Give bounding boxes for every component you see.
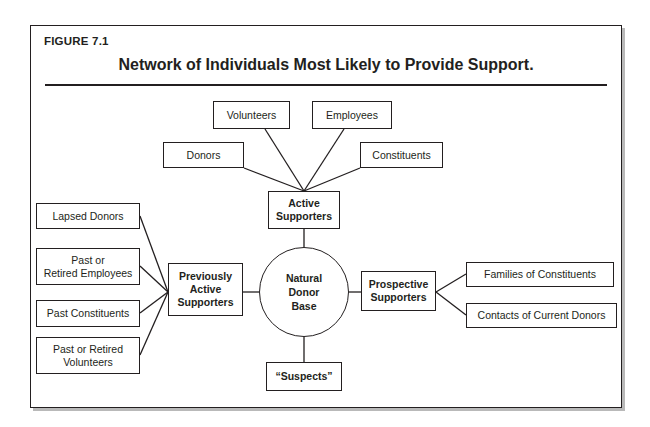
node-past-or-retired-employees-line1: Past or [71, 254, 104, 267]
node-families-of-constituents[interactable]: Families of Constituents [466, 262, 614, 287]
connector-prospective-to-families [436, 274, 466, 292]
node-previously-active-supporters-line2: Active [190, 283, 222, 296]
node-lapsed-donors[interactable]: Lapsed Donors [36, 203, 140, 229]
node-prospective-supporters-line1: Prospective [369, 278, 429, 291]
node-active-supporters-line1: Active [288, 197, 320, 210]
node-past-or-retired-volunteers-line1: Past or Retired [53, 343, 123, 356]
node-employees-label: Employees [326, 109, 378, 122]
node-past-or-retired-employees[interactable]: Past or Retired Employees [36, 248, 140, 285]
node-past-or-retired-volunteers[interactable]: Past or Retired Volunteers [36, 337, 140, 374]
node-past-constituents-label: Past Constituents [47, 307, 129, 320]
connector-prospective-to-contacts [436, 292, 466, 315]
node-natural-donor-base-line3: Base [291, 299, 316, 313]
connector-constituents-to-active [304, 168, 360, 191]
node-volunteers-label: Volunteers [227, 109, 277, 122]
connector-past-retired-volunteers-to-previously-active [140, 292, 168, 355]
node-previously-active-supporters-line1: Previously [179, 270, 232, 283]
figure-label: FIGURE 7.1 [44, 35, 109, 47]
node-prospective-supporters[interactable]: Prospective Supporters [361, 271, 436, 311]
node-lapsed-donors-label: Lapsed Donors [52, 210, 123, 223]
node-donors[interactable]: Donors [163, 142, 244, 168]
node-volunteers[interactable]: Volunteers [213, 101, 290, 129]
node-prospective-supporters-line2: Supporters [370, 291, 426, 304]
node-suspects[interactable]: “Suspects” [266, 362, 342, 391]
node-suspects-label: “Suspects” [275, 370, 332, 383]
node-past-or-retired-volunteers-line2: Volunteers [63, 356, 113, 369]
figure-page: FIGURE 7.1 Network of Individuals Most L… [0, 0, 650, 427]
node-natural-donor-base[interactable]: Natural Donor Base [259, 247, 349, 337]
node-past-constituents[interactable]: Past Constituents [36, 300, 140, 327]
connector-donors-to-active [244, 168, 304, 191]
node-employees[interactable]: Employees [312, 101, 392, 129]
connector-employees-to-active [304, 129, 344, 191]
node-natural-donor-base-line2: Donor [289, 285, 320, 299]
node-families-of-constituents-label: Families of Constituents [484, 268, 596, 281]
title-divider [45, 84, 607, 86]
node-past-or-retired-employees-line2: Retired Employees [44, 267, 133, 280]
node-active-supporters[interactable]: Active Supporters [268, 191, 340, 229]
node-constituents-label: Constituents [372, 149, 430, 162]
node-natural-donor-base-line1: Natural [286, 271, 322, 285]
node-donors-label: Donors [187, 149, 221, 162]
connector-volunteers-to-active [265, 129, 304, 191]
connector-lapsed-donors-to-previously-active [140, 216, 168, 292]
node-contacts-of-current-donors[interactable]: Contacts of Current Donors [466, 303, 617, 328]
figure-title: Network of Individuals Most Likely to Pr… [40, 56, 612, 74]
node-contacts-of-current-donors-label: Contacts of Current Donors [478, 309, 606, 322]
node-previously-active-supporters[interactable]: Previously Active Supporters [168, 263, 243, 316]
node-previously-active-supporters-line3: Supporters [177, 296, 233, 309]
node-active-supporters-line2: Supporters [276, 210, 332, 223]
node-constituents[interactable]: Constituents [360, 142, 443, 168]
